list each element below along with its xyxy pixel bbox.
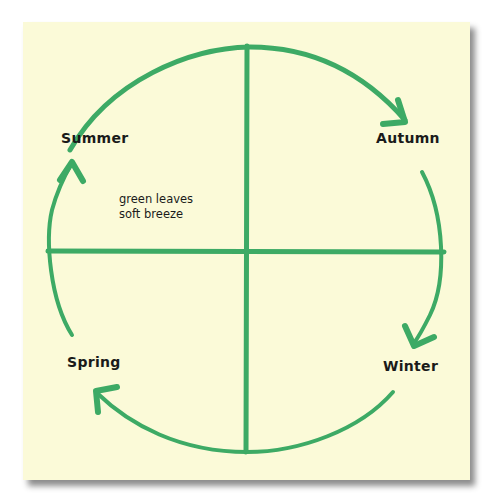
horizontal-axis-line [48,251,444,252]
arrowhead-summer-icon [60,162,83,181]
note-line-2: soft breeze [119,207,193,222]
vertical-axis-line [246,46,247,452]
season-label-winter: Winter [383,358,438,374]
season-label-autumn: Autumn [376,130,440,146]
season-label-spring: Spring [67,354,121,370]
note-line-1: green leaves [119,192,193,207]
arc-autumn-to-winter [414,172,441,343]
summer-note: green leaves soft breeze [119,192,193,222]
cycle-diagram [0,0,502,501]
season-label-summer: Summer [61,130,128,146]
